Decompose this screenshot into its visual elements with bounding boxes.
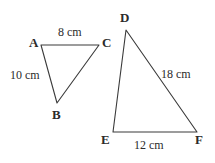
triangle-def-outline bbox=[113, 30, 197, 132]
vertex-label-e: E bbox=[101, 133, 110, 146]
vertex-label-f: F bbox=[195, 133, 203, 146]
geometry-figure: A B C D E F 8 cm 10 cm 18 cm 12 cm bbox=[0, 0, 215, 163]
vertex-label-b: B bbox=[52, 108, 61, 121]
vertex-label-c: C bbox=[102, 36, 111, 49]
side-length-ac: 8 cm bbox=[58, 26, 82, 38]
side-length-ab: 10 cm bbox=[10, 69, 40, 81]
side-length-df: 18 cm bbox=[161, 68, 191, 80]
triangle-abc-outline bbox=[41, 45, 99, 103]
vertex-label-a: A bbox=[29, 36, 38, 49]
side-length-ef: 12 cm bbox=[134, 139, 164, 151]
vertex-label-d: D bbox=[120, 11, 129, 24]
